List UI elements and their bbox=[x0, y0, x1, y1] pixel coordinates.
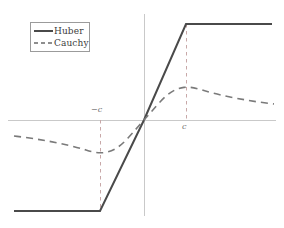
x-tick-label-pos-c: c bbox=[182, 122, 186, 131]
legend-swatch-solid-line-icon bbox=[34, 26, 53, 36]
x-tick-label-neg-c: −c bbox=[91, 105, 102, 114]
legend-swatch-dashed-line-icon bbox=[34, 38, 53, 48]
legend-entry-cauchy: Cauchy bbox=[34, 37, 86, 49]
legend: Huber Cauchy bbox=[30, 22, 90, 52]
legend-entry-huber: Huber bbox=[34, 25, 86, 37]
series-line-huber bbox=[14, 24, 272, 211]
influence-function-figure: Huber Cauchy −c c bbox=[0, 0, 284, 228]
legend-label-huber: Huber bbox=[54, 25, 84, 37]
legend-label-cauchy: Cauchy bbox=[54, 37, 89, 49]
